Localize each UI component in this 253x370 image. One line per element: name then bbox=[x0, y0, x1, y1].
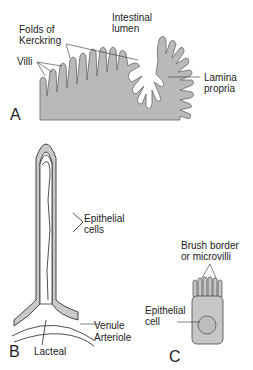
label-brush-border: Brush borderor microvilli bbox=[181, 240, 239, 262]
label-venule: Venule bbox=[94, 320, 125, 331]
microvilli bbox=[193, 277, 222, 298]
panel-letter-c: C bbox=[169, 348, 181, 366]
label-epithelial-cell: Epithelialcell bbox=[145, 305, 186, 327]
label-epithelial-cells: Epithelialcells bbox=[84, 213, 125, 235]
diagram-canvas bbox=[0, 0, 253, 370]
intestinal-wall-shape bbox=[40, 36, 194, 120]
label-folds-kerckring: Folds ofKerckring bbox=[19, 24, 61, 46]
label-intestinal-lumen: Intestinallumen bbox=[112, 12, 152, 34]
label-arteriole: Arteriole bbox=[94, 332, 131, 343]
panel-letter-b: B bbox=[9, 343, 20, 361]
label-lamina-propria: Laminapropria bbox=[204, 72, 237, 94]
label-lacteal: Lacteal bbox=[34, 346, 66, 357]
label-villi: Villi bbox=[17, 56, 32, 67]
nucleus bbox=[198, 316, 216, 334]
panel-letter-a: A bbox=[10, 106, 21, 124]
